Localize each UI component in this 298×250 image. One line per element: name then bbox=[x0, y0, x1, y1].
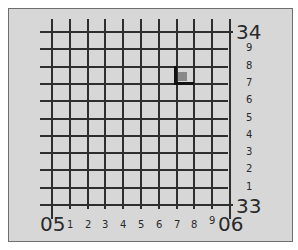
easting-start-label: 05 bbox=[40, 214, 65, 234]
easting-subdivision-label: 1 bbox=[67, 220, 73, 230]
grid-horizontal-line bbox=[40, 187, 228, 189]
grid-horizontal-line bbox=[40, 48, 228, 50]
easting-subdivision-label: 2 bbox=[85, 220, 91, 230]
northing-top-label: 34 bbox=[236, 22, 261, 42]
northing-subdivision-label: 5 bbox=[246, 113, 252, 123]
grid-horizontal-line bbox=[40, 169, 228, 171]
grid-horizontal-line bbox=[40, 135, 228, 137]
easting-subdivision-label: 6 bbox=[156, 220, 162, 230]
northing-subdivision-label: 4 bbox=[246, 130, 252, 140]
grid-horizontal-line bbox=[40, 66, 228, 68]
easting-subdivision-label: 5 bbox=[138, 220, 144, 230]
northing-subdivision-label: 1 bbox=[246, 182, 252, 192]
grid-horizontal-line bbox=[40, 83, 228, 85]
easting-subdivision-label: 3 bbox=[102, 220, 108, 230]
marker-horizontal-bar bbox=[174, 82, 194, 85]
northing-subdivision-label: 9 bbox=[246, 43, 252, 53]
grid-horizontal-line bbox=[40, 118, 228, 120]
northing-subdivision-label: 8 bbox=[246, 61, 252, 71]
grid-diagram: 123456789987654321 34 33 05 06 bbox=[0, 0, 298, 250]
easting-end-label: 06 bbox=[218, 214, 243, 234]
northing-subdivision-label: 6 bbox=[246, 95, 252, 105]
grid-horizontal-line bbox=[40, 31, 233, 33]
northing-subdivision-label: 7 bbox=[246, 78, 252, 88]
grid-horizontal-line bbox=[40, 100, 228, 102]
northing-subdivision-label: 3 bbox=[246, 147, 252, 157]
easting-subdivision-label: 9 bbox=[209, 216, 215, 226]
easting-subdivision-label: 4 bbox=[120, 220, 126, 230]
easting-subdivision-label: 8 bbox=[191, 220, 197, 230]
easting-subdivision-label: 7 bbox=[174, 220, 180, 230]
marker-square bbox=[178, 72, 187, 81]
northing-subdivision-label: 2 bbox=[246, 164, 252, 174]
grid-vertical-line bbox=[229, 19, 231, 219]
grid-horizontal-line bbox=[40, 204, 233, 206]
grid-horizontal-line bbox=[40, 152, 228, 154]
